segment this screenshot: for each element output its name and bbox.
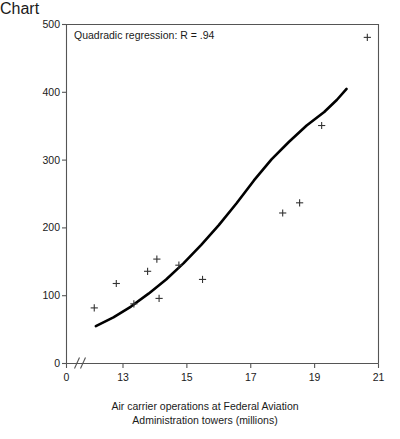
data-point-marker (199, 276, 206, 283)
x-axis-title: Air carrier operations at Federal Aviati… (40, 400, 370, 427)
y-tick-label-100: 100 (42, 290, 60, 301)
data-point-marker (144, 268, 151, 275)
data-point-marker (91, 304, 98, 311)
regression-curve (96, 89, 347, 326)
x-tick-label-13: 13 (117, 372, 129, 383)
regression-annotation: Quadradic regression: R = .94 (74, 29, 214, 42)
data-point-marker (155, 295, 162, 302)
x-axis-title-line1: Air carrier operations at Federal Aviati… (40, 400, 370, 414)
x-tick-label-21: 21 (373, 372, 385, 383)
x-axis-ticks (67, 364, 379, 369)
y-tick-label-0: 0 (54, 358, 60, 369)
x-axis-title-line2: Administration towers (millions) (40, 414, 370, 428)
data-point-marker (318, 122, 325, 129)
x-tick-label-0: 0 (64, 372, 70, 383)
data-points (91, 34, 371, 312)
y-tick-label-500: 500 (42, 19, 60, 30)
chart-figure: Air carrier near midair collisions 01002… (0, 0, 400, 439)
x-tick-label-19: 19 (309, 372, 321, 383)
y-tick-label-300: 300 (42, 155, 60, 166)
y-tick-label-400: 400 (42, 87, 60, 98)
data-point-marker (364, 34, 371, 41)
data-point-marker (296, 199, 303, 206)
y-tick-label-200: 200 (42, 222, 60, 233)
plot-frame (67, 25, 379, 364)
data-point-marker (113, 280, 120, 287)
x-tick-label-17: 17 (245, 372, 257, 383)
y-axis-title-wrapper: Air carrier near midair collisions (4, 24, 18, 364)
x-axis-tick-labels: 01315171921 (0, 372, 400, 386)
y-axis-ticks (62, 25, 67, 364)
data-point-marker (279, 209, 286, 216)
data-point-marker (153, 255, 160, 262)
x-tick-label-15: 15 (181, 372, 193, 383)
data-point-marker (175, 262, 182, 269)
